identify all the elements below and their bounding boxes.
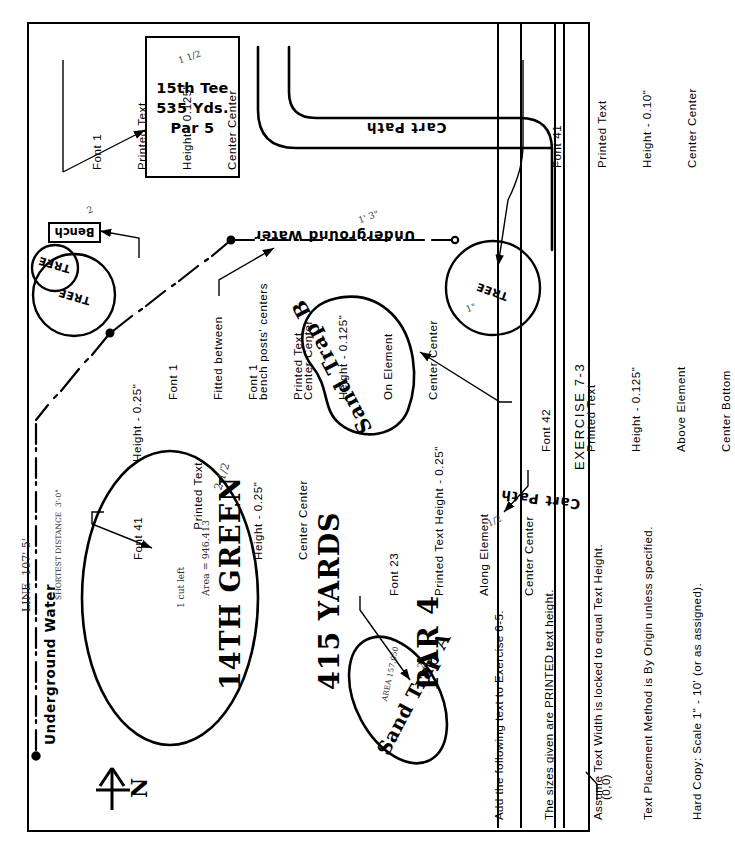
instruction-line-1: Add the following text to Exercise 6-5.	[491, 526, 508, 820]
exercise-label: EXERCISE 7-3	[572, 363, 587, 470]
callout-cart-path-top-font: Font 41	[550, 88, 565, 168]
callout-cart-path-top: Font 41 Printed Text Height - 0.10" Cent…	[520, 168, 600, 378]
callout-bench-font: Font 1	[166, 283, 181, 400]
origin-label: (0,0)	[600, 774, 612, 800]
cart-path-top-label: Cart Path	[366, 120, 447, 136]
callout-cart-path-top-height: Height - 0.10"	[640, 88, 655, 168]
callout-bench-height-text: Height - 0.25"	[130, 384, 145, 462]
callout-tee-kind: Printed Text	[135, 85, 150, 170]
callout-water-font: Font 1	[246, 315, 261, 400]
callout-trap-a-height: Printed Text Height - 0.25"	[432, 446, 447, 596]
instruction-line-5: Hard Copy: Scale 1" - 10' (or as assigne…	[689, 526, 706, 820]
callout-tee-height: Height - 0.125"	[180, 85, 195, 170]
callout-green-justify: Center Center	[296, 462, 311, 560]
callout-green: Font 41 Printed Text Height - 0.25" Cent…	[101, 560, 199, 800]
instruction-line-4: Text Placement Method is By Origin unles…	[640, 526, 657, 820]
water-line-note-wrap: LINE 107' 5'	[20, 612, 94, 625]
callout-cart-path-top-kind: Printed Text	[595, 88, 610, 168]
handwritten-water-line-note: LINE 107' 5'	[20, 538, 33, 612]
underground-water-mid-label: Underground Water	[254, 228, 415, 244]
instruction-line-2: The sizes given are PRINTED text height.	[541, 526, 558, 820]
callout-trap-b-height: Height - 0.125"	[629, 366, 644, 452]
callout-cart-path-top-justify: Center Center	[685, 88, 700, 168]
callout-tee-font: Font 1	[90, 85, 105, 170]
callout-trap-b-justify: Center Bottom	[719, 366, 734, 452]
callout-trap-a-font: Font 23	[387, 446, 402, 596]
callout-trap-b-placement: Above Element	[674, 366, 689, 452]
callout-water-kind: Printed Text	[291, 315, 306, 400]
callout-green-height: Height - 0.25"	[251, 462, 266, 560]
callout-green-kind-height: Printed Text	[176, 462, 221, 560]
callout-water-placement: On Element	[381, 315, 396, 400]
callout-tee-justify: Center Center	[225, 85, 240, 170]
callout-tee: Font 1 Printed Text Height - 0.125" Cent…	[60, 170, 145, 380]
exercise-label-wrap: EXERCISE 7-3	[572, 470, 679, 485]
origin-label-wrap: (0,0)	[600, 800, 626, 812]
handwritten-water-sub-note: SHORTEST DISTANCE 3'-0"	[54, 489, 63, 600]
callout-green-font: Font 41	[131, 462, 146, 560]
callout-green-kind: Printed Text	[192, 462, 204, 530]
callout-trap-b-font: Font 42	[539, 366, 554, 452]
callout-water-justify: Center Center	[426, 315, 441, 400]
callout-water-height: Height - 0.125"	[336, 315, 351, 400]
